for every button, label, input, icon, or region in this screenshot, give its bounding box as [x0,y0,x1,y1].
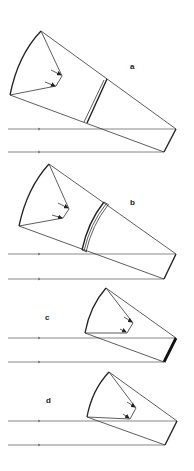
primary-mirror-a [164,129,176,152]
corrector-lens-a [87,79,107,123]
primary-mirror-b [164,254,176,279]
focal-surface-d [87,372,109,417]
focal-surface-b [19,164,49,226]
corrector-shell-b [82,202,104,250]
optical-diagram: a b c [0,0,194,471]
panel-d: d [8,372,177,446]
focal-surface-c [85,288,106,333]
primary-mirror-d [165,421,177,445]
panel-a: a [8,31,176,153]
panel-label-d: d [46,396,51,405]
panel-label-b: b [130,198,135,207]
panel-label-c: c [45,313,50,322]
panel-b: b [8,164,176,280]
focal-surface-a [10,31,41,95]
panel-c: c [8,288,176,363]
panel-label-a: a [130,62,135,71]
primary-mirror-c [164,338,176,362]
